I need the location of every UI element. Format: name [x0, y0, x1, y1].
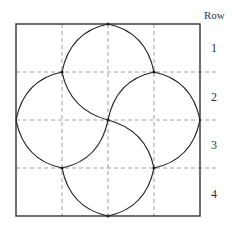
- node: [106, 214, 109, 217]
- curve-top-left: [62, 24, 108, 72]
- curve-right-lower: [154, 120, 200, 168]
- curve-left-lower: [16, 120, 62, 168]
- grid-lines: [16, 24, 218, 216]
- curve-s-lower: [108, 120, 154, 168]
- curve-right-upper: [154, 72, 200, 120]
- row-label-4: 4: [211, 187, 217, 201]
- row-label-2: 2: [211, 90, 217, 104]
- curve-bottom-right: [108, 168, 154, 216]
- curve-top-right: [108, 24, 154, 72]
- curve-center-right: [108, 72, 154, 120]
- curve-bottom-left: [62, 168, 108, 216]
- row-diagram: Row 1 2 3 4: [0, 0, 236, 226]
- node: [106, 22, 109, 25]
- curve-s-upper: [62, 72, 108, 120]
- row-label-3: 3: [211, 138, 217, 152]
- row-header-label: Row: [204, 9, 225, 21]
- curve-center-left: [62, 120, 108, 168]
- row-label-1: 1: [211, 41, 217, 55]
- node: [152, 70, 155, 73]
- node: [152, 166, 155, 169]
- curve-left-upper: [16, 72, 62, 120]
- node: [60, 166, 63, 169]
- node: [106, 118, 109, 121]
- node: [60, 70, 63, 73]
